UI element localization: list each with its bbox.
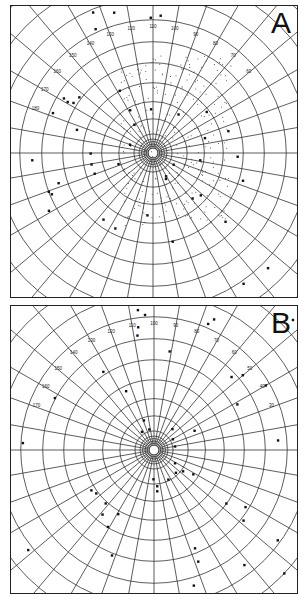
meridian-label: 140	[70, 350, 78, 355]
meridian-label: 90	[173, 323, 179, 328]
meridian-label: 150	[69, 53, 77, 58]
meridian-label: 80	[213, 41, 219, 46]
meridian-label: 150	[54, 366, 62, 371]
meridian-label: 40	[260, 384, 266, 389]
map-panel-b: 17016015014013012011010090807060504030 B	[10, 305, 298, 594]
panel-label-a: A	[271, 8, 291, 38]
meridian-label: 130	[106, 32, 114, 37]
meridian-label: 160	[53, 69, 61, 74]
polar-grid-map-a: 18017016015014013012011010090807060	[11, 6, 297, 297]
meridian-label: 100	[150, 321, 158, 326]
meridian-label: 60	[232, 350, 238, 355]
meridian-label: 170	[41, 87, 49, 92]
meridian-label: 80	[194, 329, 200, 334]
polar-grid-map-b: 17016015014013012011010090807060504030	[11, 306, 297, 593]
meridian-label: 30	[269, 403, 275, 408]
map-panel-a: 18017016015014013012011010090807060 A	[10, 5, 298, 298]
meridian-label: 130	[88, 338, 96, 343]
meridian-label: 110	[129, 323, 137, 328]
meridian-label: 120	[128, 26, 136, 31]
panel-label-b: B	[271, 308, 291, 338]
meridian-label: 50	[247, 366, 253, 371]
meridian-label: 70	[231, 53, 237, 58]
meridian-label: 100	[171, 26, 179, 31]
meridian-label: 90	[193, 32, 199, 37]
meridian-label: 70	[214, 338, 220, 343]
meridian-label: 60	[246, 69, 252, 74]
meridian-label: 170	[33, 403, 41, 408]
meridian-label: 180	[32, 106, 40, 111]
meridian-label: 120	[107, 329, 115, 334]
meridian-label: 140	[87, 41, 95, 46]
meridian-label: 160	[42, 384, 50, 389]
meridian-label: 110	[149, 24, 157, 29]
